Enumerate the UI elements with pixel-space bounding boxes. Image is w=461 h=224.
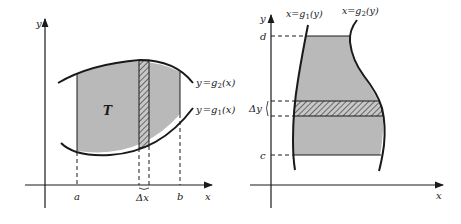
left-diagram: y x T a b Δx y=g2(x) y=g1(x) bbox=[25, 18, 235, 208]
tick-label-c: c bbox=[260, 150, 266, 161]
figure-canvas: y x T a b Δx y=g2(x) y=g1(x) y x d c bbox=[0, 0, 461, 224]
strip-delta-x bbox=[139, 60, 149, 148]
region-label: T bbox=[103, 104, 113, 118]
upper-curve-label: y=g2(x) bbox=[195, 77, 235, 90]
lower-curve-label: y=g1(x) bbox=[195, 104, 235, 117]
y-axis-label: y bbox=[35, 18, 42, 29]
delta-x-brace bbox=[139, 188, 149, 190]
strip-delta-y bbox=[294, 101, 383, 116]
right-curve-label: x=g2(y) bbox=[342, 5, 379, 18]
strip-label-delta-y: Δy bbox=[248, 103, 262, 114]
tick-label-d: d bbox=[260, 31, 266, 42]
x-axis-label-right: x bbox=[436, 190, 442, 201]
region-right bbox=[294, 36, 383, 155]
tick-label-b: b bbox=[177, 191, 183, 202]
y-axis-label-right: y bbox=[259, 13, 266, 24]
left-curve-label: x=g1(y) bbox=[286, 8, 323, 21]
x-axis-label: x bbox=[205, 191, 211, 202]
tick-label-a: a bbox=[74, 191, 80, 202]
strip-label-delta-x: Δx bbox=[135, 192, 149, 203]
region-t bbox=[77, 61, 180, 152]
delta-y-brace bbox=[267, 101, 269, 116]
right-diagram: y x d c Δy x=g1(y) x=g2(y) bbox=[248, 5, 443, 208]
